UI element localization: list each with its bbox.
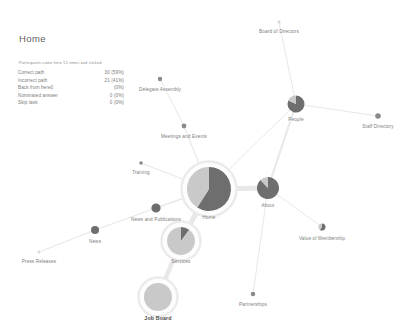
node-label: Board of Directors bbox=[259, 29, 299, 34]
node-label: Job Board bbox=[144, 315, 171, 321]
graph-node-news_pubs[interactable]: News and Publications bbox=[131, 203, 181, 222]
stats-row: Back from here0(0%) bbox=[18, 85, 124, 92]
graph-node-training[interactable]: Training bbox=[132, 161, 150, 175]
node-dot[interactable] bbox=[277, 20, 280, 23]
graph-node-staff_dir[interactable]: Staff Directory bbox=[362, 113, 394, 129]
stats-row-label: Nominated answer bbox=[18, 92, 89, 99]
stats-row: Correct path30 (59%) bbox=[18, 70, 124, 77]
panel-subtitle: Participants came here 51 times and clic… bbox=[19, 60, 143, 65]
graph-node-home[interactable]: Home bbox=[182, 162, 237, 221]
node-label: Delegate Assembly bbox=[139, 87, 182, 92]
stats-row-value: 0 (0%) bbox=[89, 92, 124, 99]
graph-node-about[interactable]: About bbox=[257, 177, 279, 208]
stats-row-label: Incorrect path bbox=[18, 77, 89, 84]
node-label: Value of Membership bbox=[299, 236, 345, 241]
node-dot[interactable] bbox=[251, 292, 256, 297]
graph-node-people[interactable]: People bbox=[287, 96, 304, 123]
stats-table-body: Correct path30 (59%)Incorrect path21 (41… bbox=[18, 70, 124, 107]
node-dot[interactable] bbox=[182, 124, 187, 129]
node-label: Staff Directory bbox=[362, 124, 394, 129]
node-label: Home bbox=[203, 215, 216, 220]
stats-row: Skip task0 (0%) bbox=[18, 100, 124, 107]
stats-row-label: Skip task bbox=[18, 100, 89, 107]
graph-node-services[interactable]: Services bbox=[162, 222, 201, 265]
stats-row-value: 30 (59%) bbox=[89, 70, 124, 77]
stats-row-label: Back from here0 bbox=[18, 85, 89, 92]
graph-edge bbox=[296, 104, 378, 116]
graph-edge bbox=[279, 22, 296, 104]
node-label: Press Releases bbox=[22, 259, 57, 264]
pie-slice-incorrect[interactable] bbox=[167, 227, 195, 255]
graph-node-meetings[interactable]: Meetings and Events bbox=[161, 124, 208, 139]
stats-row: Nominated answer0 (0%) bbox=[18, 92, 124, 99]
node-label: Services bbox=[172, 259, 191, 264]
graph-node-job_board[interactable]: Job Board bbox=[139, 278, 178, 322]
treetest-visualization: HomeServicesJob BoardAboutPeopleNews and… bbox=[0, 0, 414, 335]
pie-slice-incorrect[interactable] bbox=[144, 283, 172, 311]
node-label: People bbox=[288, 117, 304, 122]
stats-row-value: (0%) bbox=[89, 85, 124, 92]
node-label: Meetings and Events bbox=[161, 134, 208, 139]
node-info-panel: Home Participants came here 51 times and… bbox=[18, 33, 143, 107]
graph-node-delegate[interactable]: Delegate Assembly bbox=[139, 77, 182, 92]
node-label: News bbox=[89, 239, 102, 244]
graph-node-board[interactable]: Board of Directors bbox=[259, 20, 299, 34]
stats-row-value: 21 (41%) bbox=[89, 77, 124, 84]
node-dot[interactable] bbox=[158, 77, 162, 81]
node-dot[interactable] bbox=[38, 251, 41, 254]
stats-table: Correct path30 (59%)Incorrect path21 (41… bbox=[18, 70, 124, 107]
stats-row: Incorrect path21 (41%) bbox=[18, 77, 124, 84]
node-label: News and Publications bbox=[131, 217, 181, 222]
node-dot[interactable] bbox=[375, 113, 381, 119]
graph-edge bbox=[39, 230, 95, 252]
stats-row-value: 0 (0%) bbox=[89, 100, 124, 107]
node-label: About bbox=[262, 203, 275, 208]
node-label: Partnerships bbox=[239, 302, 267, 307]
pie-slice-correct[interactable] bbox=[151, 203, 160, 212]
graph-node-press_releases[interactable]: Press Releases bbox=[22, 251, 57, 265]
page-title: Home bbox=[19, 33, 143, 44]
node-label: Training bbox=[132, 170, 150, 175]
stats-row-label: Correct path bbox=[18, 70, 89, 77]
node-dot[interactable] bbox=[139, 161, 143, 165]
pie-slice-correct[interactable] bbox=[91, 226, 99, 234]
graph-node-value_member[interactable]: Value of Membership bbox=[299, 223, 345, 241]
graph-node-partnerships[interactable]: Partnerships bbox=[239, 292, 267, 307]
